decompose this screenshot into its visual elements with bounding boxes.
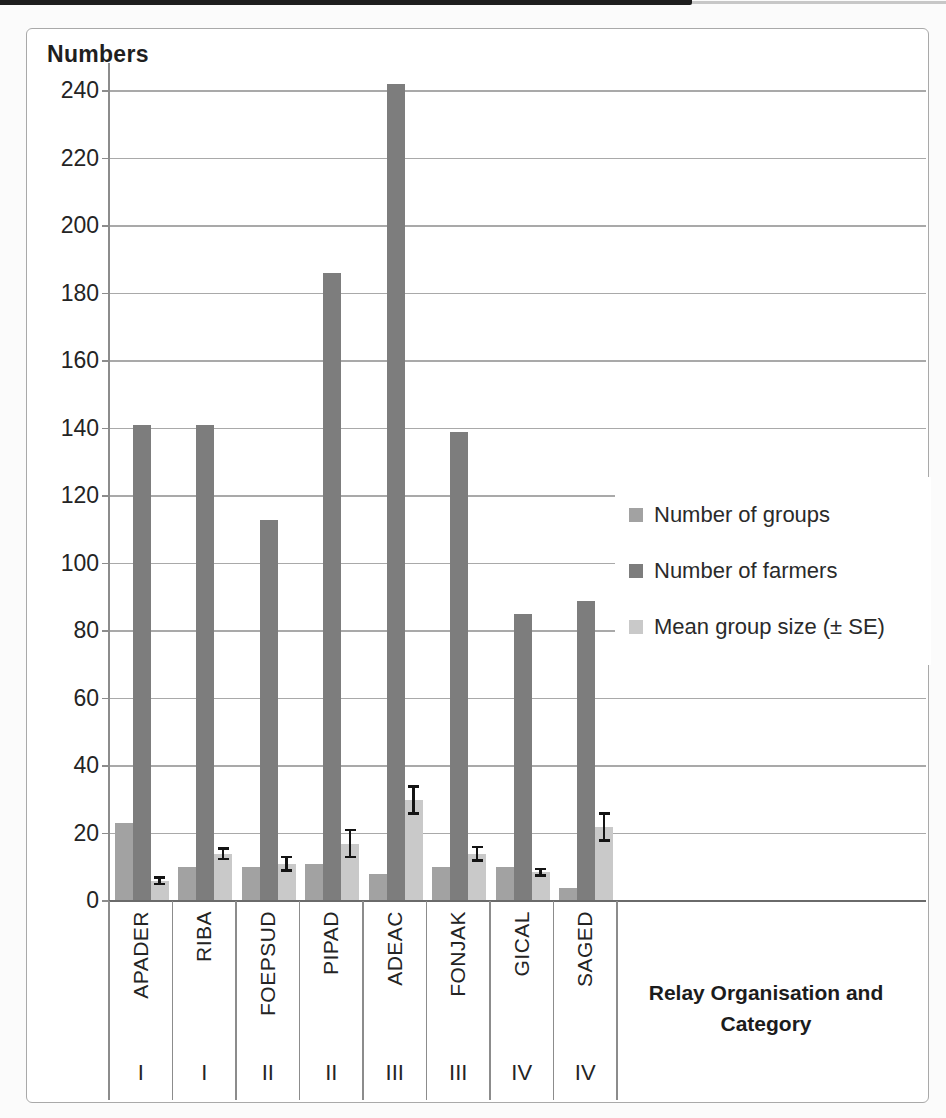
bar-mean-group-size-se-adeac: [405, 800, 423, 901]
x-axis-title: Relay Organisation and Category: [599, 977, 933, 1039]
y-tick-label-160: 160: [39, 347, 99, 374]
gridline-180: [109, 293, 926, 295]
x-axis-title-line-1: Relay Organisation and: [649, 981, 884, 1004]
category-group-label-6: III: [427, 1060, 491, 1086]
error-bar-cap-top-foepsud: [281, 856, 292, 859]
category-label-text-saged: SAGED: [573, 911, 597, 987]
error-bar-cap-bottom-pipad: [345, 856, 356, 859]
category-group-label-5: III: [363, 1060, 427, 1086]
bar-number-of-farmers-foepsud: [260, 520, 278, 901]
legend-swatch-groups: [629, 508, 643, 522]
error-bar-stem-saged: [603, 813, 606, 840]
error-bar-cap-top-pipad: [345, 829, 356, 832]
category-cell-border-7: [553, 901, 555, 1100]
category-cell-border-3: [299, 901, 301, 1100]
bar-number-of-groups-riba: [178, 867, 196, 901]
bar-number-of-farmers-gical: [514, 614, 532, 901]
legend-item-mean-group-size: Mean group size (± SE): [629, 614, 931, 640]
category-label-text-riba: RIBA: [192, 911, 216, 962]
error-bar-cap-top-fonjak: [472, 846, 483, 849]
category-label-gical: GICAL: [490, 909, 554, 1061]
error-bar-cap-bottom-foepsud: [281, 869, 292, 872]
bar-number-of-groups-foepsud: [242, 867, 260, 901]
category-cell-border-1: [172, 901, 174, 1100]
category-label-text-gical: GICAL: [510, 911, 534, 977]
error-bar-cap-bottom-saged: [599, 839, 610, 842]
legend-swatch-farmers: [629, 564, 643, 578]
y-tick-label-0: 0: [39, 887, 99, 914]
error-bar-stem-adeac: [412, 786, 415, 813]
category-label-foepsud: FOEPSUD: [236, 909, 300, 1061]
y-tick-label-200: 200: [39, 212, 99, 239]
bar-number-of-groups-fonjak: [432, 867, 450, 901]
scanned-page: Numbers 02040608010012014016018020022024…: [0, 0, 946, 1118]
category-group-label-7: IV: [490, 1060, 554, 1086]
category-label-pipad: PIPAD: [300, 909, 364, 1061]
y-tick-label-20: 20: [39, 820, 99, 847]
category-label-apader: APADER: [109, 909, 173, 1061]
category-label-text-apader: APADER: [129, 911, 153, 999]
error-bar-cap-top-adeac: [408, 785, 419, 788]
legend-item-groups: Number of groups: [629, 502, 931, 528]
category-cell-border-6: [489, 901, 491, 1100]
legend-label-farmers: Number of farmers: [654, 558, 837, 584]
category-cell-border-2: [235, 901, 237, 1100]
y-tick-label-40: 40: [39, 752, 99, 779]
x-axis-title-line-2: Category: [720, 1012, 811, 1035]
x-axis-baseline: [109, 900, 926, 902]
y-axis-title: Numbers: [47, 41, 149, 68]
error-bar-cap-top-gical: [535, 868, 546, 871]
error-bar-stem-pipad: [349, 830, 352, 857]
bar-number-of-farmers-fonjak: [450, 432, 468, 901]
bar-number-of-farmers-adeac: [387, 84, 405, 901]
bar-number-of-groups-adeac: [369, 874, 387, 901]
y-tick-label-100: 100: [39, 550, 99, 577]
error-bar-cap-bottom-adeac: [408, 812, 419, 815]
y-tick-label-60: 60: [39, 685, 99, 712]
error-bar-cap-top-saged: [599, 812, 610, 815]
category-label-text-fonjak: FONJAK: [446, 911, 470, 997]
gridline-220: [109, 158, 926, 160]
gridline-200: [109, 225, 926, 227]
error-bar-cap-bottom-fonjak: [472, 859, 483, 862]
bar-number-of-farmers-pipad: [323, 273, 341, 901]
category-group-label-4: II: [300, 1060, 364, 1086]
y-tick-label-180: 180: [39, 280, 99, 307]
category-cell-border-4: [362, 901, 364, 1100]
bar-number-of-groups-saged: [559, 888, 577, 902]
error-bar-cap-top-apader: [154, 876, 165, 879]
y-tick-label-240: 240: [39, 77, 99, 104]
bar-mean-group-size-se-riba: [214, 854, 232, 901]
category-group-label-8: IV: [554, 1060, 618, 1086]
legend-item-farmers: Number of farmers: [629, 558, 931, 584]
bar-number-of-groups-apader: [115, 823, 133, 901]
category-label-text-pipad: PIPAD: [319, 911, 343, 975]
y-tick-label-220: 220: [39, 145, 99, 172]
category-label-adeac: ADEAC: [363, 909, 427, 1061]
error-bar-cap-bottom-gical: [535, 874, 546, 877]
chart-frame: Numbers 02040608010012014016018020022024…: [26, 28, 929, 1103]
category-cell-border-0: [108, 901, 110, 1100]
legend-swatch-mean-group-size: [629, 620, 643, 634]
error-bar-cap-bottom-apader: [154, 883, 165, 886]
category-label-text-foepsud: FOEPSUD: [256, 911, 280, 1016]
category-cell-border-5: [426, 901, 428, 1100]
category-label-text-adeac: ADEAC: [383, 911, 407, 986]
bar-number-of-groups-gical: [496, 867, 514, 901]
scan-artifact-light-line: [692, 1, 946, 4]
scan-artifact-dark-line: [0, 0, 692, 5]
category-label-riba: RIBA: [173, 909, 237, 1061]
bar-number-of-farmers-riba: [196, 425, 214, 901]
y-tick-label-120: 120: [39, 482, 99, 509]
legend: Number of groups Number of farmers Mean …: [615, 477, 931, 665]
category-group-label-1: I: [109, 1060, 173, 1086]
gridline-160: [109, 360, 926, 362]
legend-label-groups: Number of groups: [654, 502, 830, 528]
y-tick-label-80: 80: [39, 617, 99, 644]
gridline-140: [109, 428, 926, 430]
error-bar-cap-top-riba: [218, 847, 229, 850]
category-group-label-3: II: [236, 1060, 300, 1086]
error-bar-cap-bottom-riba: [218, 858, 229, 861]
category-label-fonjak: FONJAK: [427, 909, 491, 1061]
category-group-label-2: I: [173, 1060, 237, 1086]
